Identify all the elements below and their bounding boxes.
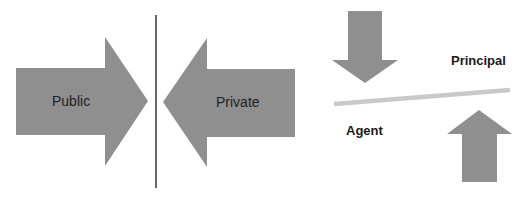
down-arrow [332, 11, 398, 83]
up-arrow [447, 110, 512, 182]
private-label: Private [216, 95, 260, 109]
principal-label: Principal [451, 54, 506, 67]
public-label: Public [52, 94, 90, 108]
agent-label: Agent [346, 124, 383, 137]
balance-line [334, 90, 510, 104]
